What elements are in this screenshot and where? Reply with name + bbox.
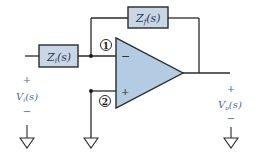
output-ground-icon: [224, 127, 238, 148]
output-plus-sign: +: [227, 83, 235, 94]
input-plus-sign: +: [23, 74, 31, 85]
inverting-input-sign: −: [121, 50, 130, 63]
noninverting-input-sign: +: [121, 86, 129, 97]
input-impedance-label: Zi(s): [46, 51, 71, 65]
opamp-circuit-diagram: Zi(s) Zf(s) − + 1 2 + Vi(s) − + Vo(s) −: [0, 0, 257, 164]
node2-ground-icon: [84, 138, 98, 148]
feedback-impedance-label: Zf(s): [135, 12, 160, 26]
opamp-triangle: [116, 38, 183, 108]
node1-label: 1: [103, 41, 109, 51]
input-voltage-label: Vi(s): [16, 91, 38, 103]
junction-node1: [89, 54, 93, 58]
input-ground-icon: [20, 125, 34, 148]
input-minus-sign: −: [23, 106, 31, 117]
junction-node2: [89, 89, 93, 93]
output-minus-sign: −: [227, 113, 235, 124]
output-voltage-label: Vo(s): [218, 99, 242, 111]
node2-label: 2: [102, 97, 108, 107]
